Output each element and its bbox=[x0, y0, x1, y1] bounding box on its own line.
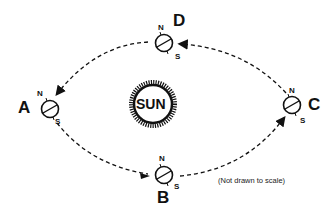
position-d-south-label: S bbox=[175, 52, 180, 61]
position-d-label: D bbox=[173, 11, 185, 31]
position-c-north-label: N bbox=[289, 86, 295, 95]
arrow-to-b-icon bbox=[140, 173, 150, 179]
position-b-north-label: N bbox=[159, 154, 165, 163]
sun-label: SUN bbox=[136, 96, 166, 112]
position-b-south-label: S bbox=[174, 182, 179, 191]
position-d-north-label: N bbox=[158, 23, 164, 32]
earth-b-icon bbox=[156, 164, 173, 186]
position-a-north-label: N bbox=[37, 89, 43, 98]
earth-d-icon bbox=[156, 32, 173, 54]
position-b-label: B bbox=[157, 188, 169, 208]
position-a-south-label: S bbox=[55, 117, 60, 126]
position-c-south-label: S bbox=[300, 116, 305, 125]
scale-note: (Not drawn to scale) bbox=[218, 176, 285, 185]
orbit-diagram: SUN A N S B N S C N S D N S (Not drawn t… bbox=[0, 0, 331, 216]
position-a-label: A bbox=[18, 98, 30, 118]
position-c-label: C bbox=[308, 95, 320, 115]
earth-c-icon bbox=[284, 94, 301, 116]
